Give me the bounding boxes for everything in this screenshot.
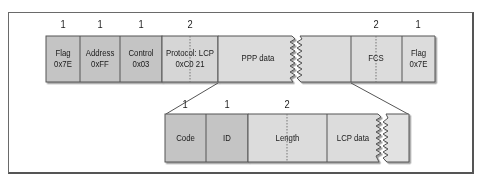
field-lcp-data: LCP data [332, 132, 375, 143]
field-length: Length [255, 132, 320, 143]
size-label: 2 [182, 18, 199, 30]
field-code: Code [169, 132, 203, 143]
size-label: 1 [92, 18, 109, 30]
field-fcs: FCS [360, 52, 393, 63]
size-label: 2 [279, 98, 296, 110]
size-label: 2 [368, 18, 385, 30]
size-label: 1 [133, 18, 150, 30]
size-label: 1 [55, 18, 72, 30]
field-ppp-data: PPP data [233, 52, 282, 63]
field-control: Control0x03 [124, 47, 158, 69]
field-flag: Flag0x7E [49, 47, 77, 69]
size-label: 1 [410, 18, 427, 30]
size-label: 1 [177, 98, 194, 110]
field-address: Address0xFF [84, 47, 117, 69]
field-flag-end: Flag0x7E [405, 47, 432, 69]
field-protocol: Protocol: LCP0xC0 21 [164, 47, 216, 69]
size-label: 1 [219, 98, 236, 110]
field-id: ID [210, 132, 244, 143]
